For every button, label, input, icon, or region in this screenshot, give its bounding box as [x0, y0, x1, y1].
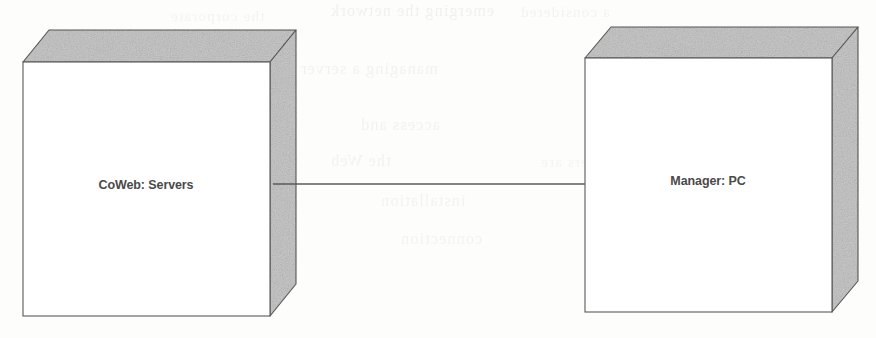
node-label-manager-pc: Manager: PC [670, 174, 745, 188]
node-coweb-servers[interactable] [23, 30, 296, 316]
nodes-group [23, 27, 858, 316]
node-top-face [585, 27, 858, 58]
node-side-face [832, 27, 858, 312]
deployment-diagram-canvas: emerging the networka consideredthe corp… [0, 0, 876, 338]
node-manager-pc[interactable] [585, 27, 858, 312]
diagram-vector-layer: CoWeb: ServersManager: PC [0, 0, 876, 338]
node-side-face [270, 30, 296, 316]
node-label-coweb-servers: CoWeb: Servers [99, 178, 194, 192]
node-top-face [23, 30, 296, 62]
